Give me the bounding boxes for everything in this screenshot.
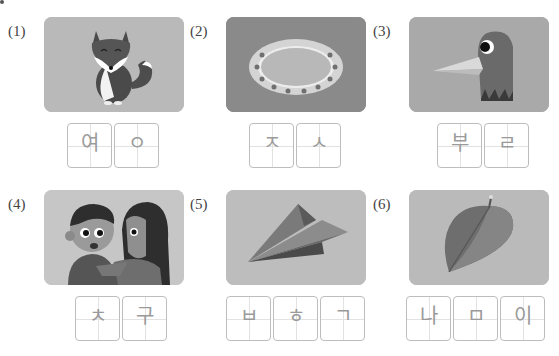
item-number: (6) [373, 196, 391, 213]
fox-icon [44, 17, 184, 112]
answer-box[interactable]: 부 [437, 123, 482, 168]
picture-bird-head [409, 17, 549, 112]
item-number: (2) [190, 23, 208, 40]
exercise-item-4: (4) ㅊ 구 [8, 190, 190, 356]
answer-boxes: ㅂ ㅎ ㄱ [226, 296, 365, 341]
syllable-hint: ㅁ [467, 300, 485, 329]
picture-oval-mirror [226, 17, 366, 112]
syllable-hint: ㄱ [334, 300, 352, 329]
answer-boxes: ㅈ ㅅ [249, 123, 341, 168]
answer-boxes: 부 ㄹ [437, 123, 529, 168]
exercise-item-5: (5) ㅂ ㅎ ㄱ [190, 190, 372, 356]
answer-box[interactable]: 이 [500, 296, 545, 341]
answer-boxes: ㅊ 구 [75, 296, 167, 341]
bullet-marker [0, 0, 4, 4]
answer-box[interactable]: ㅁ [453, 296, 498, 341]
syllable-hint: ㅎ [287, 300, 305, 329]
answer-box[interactable]: ㅈ [249, 123, 294, 168]
answer-box[interactable]: ㅅ [296, 123, 341, 168]
children-icon [44, 190, 184, 285]
answer-box[interactable]: ㄱ [320, 296, 365, 341]
item-number: (4) [8, 196, 26, 213]
item-number: (1) [8, 23, 26, 40]
syllable-hint: ㄹ [498, 127, 516, 156]
picture-fox [44, 17, 184, 112]
answer-boxes: 여 ㅇ [67, 123, 159, 168]
answer-box[interactable]: ㄹ [484, 123, 529, 168]
answer-box[interactable]: ㅎ [273, 296, 318, 341]
answer-box[interactable]: ㅊ [75, 296, 120, 341]
answer-box[interactable]: 구 [122, 296, 167, 341]
answer-box[interactable]: 나 [406, 296, 451, 341]
item-number: (3) [373, 23, 391, 40]
exercise-item-2: (2) ㅈ ㅅ [190, 17, 372, 187]
bird-icon [409, 17, 549, 112]
answer-box[interactable]: ㅇ [114, 123, 159, 168]
paper-airplane-icon [226, 190, 366, 285]
syllable-hint: ㅈ [263, 127, 281, 156]
exercise-item-3: (3) 부 ㄹ [373, 17, 555, 187]
answer-box[interactable]: ㅂ [226, 296, 271, 341]
picture-paper-airplane [226, 190, 366, 285]
syllable-hint: ㅇ [128, 127, 146, 156]
syllable-hint: 이 [514, 300, 532, 329]
picture-friends [44, 190, 184, 285]
syllable-hint: ㅊ [89, 300, 107, 329]
exercise-item-6: (6) 나 ㅁ 이 [373, 190, 555, 356]
mirror-icon [226, 17, 366, 112]
leaf-icon [409, 190, 549, 285]
syllable-hint: 나 [420, 300, 438, 329]
picture-leaf [409, 190, 549, 285]
syllable-hint: 부 [451, 127, 469, 156]
answer-boxes: 나 ㅁ 이 [406, 296, 545, 341]
syllable-hint: ㅅ [310, 127, 328, 156]
exercise-item-1: (1) 여 ㅇ [8, 17, 190, 187]
syllable-hint: ㅂ [240, 300, 258, 329]
item-number: (5) [190, 196, 208, 213]
answer-box[interactable]: 여 [67, 123, 112, 168]
syllable-hint: 여 [81, 127, 99, 156]
syllable-hint: 구 [136, 300, 154, 329]
